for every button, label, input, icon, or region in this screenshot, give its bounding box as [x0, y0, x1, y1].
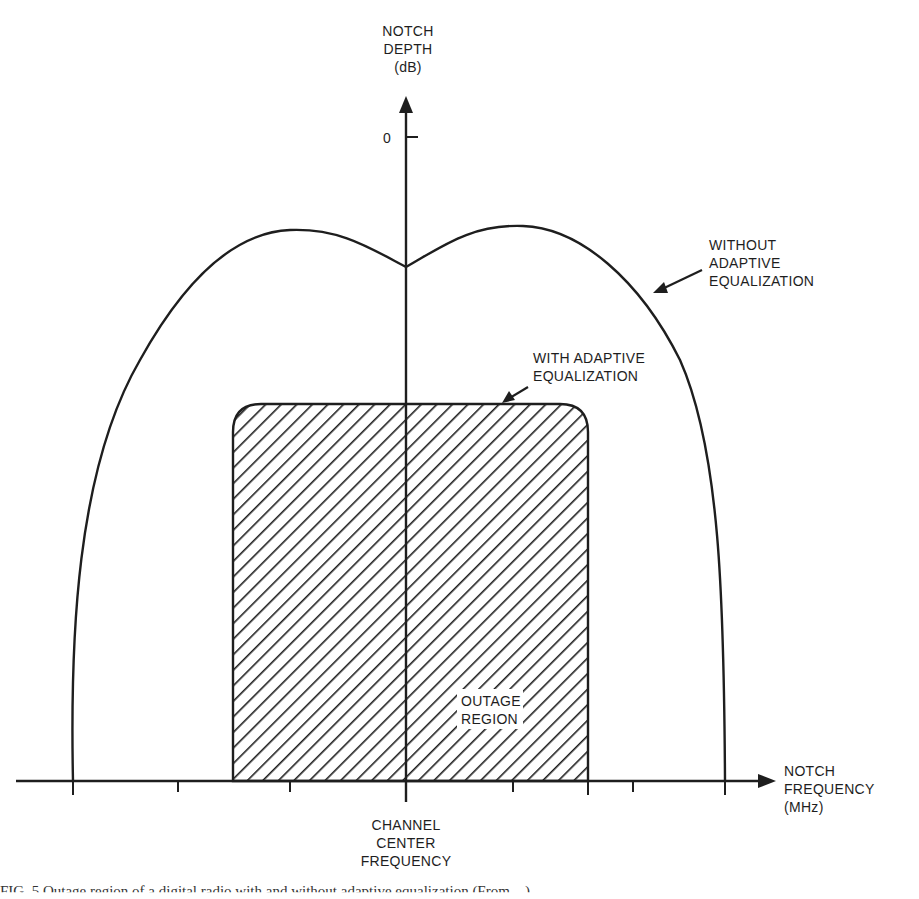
- diagram-canvas: [0, 0, 919, 899]
- x-ticks: [73, 781, 725, 795]
- outage-region-diagram: NOTCH DEPTH (dB) 0 WITHOUT ADAPTIVE EQUA…: [0, 0, 919, 899]
- x-axis-label-line: NOTCH: [784, 762, 875, 780]
- x-axis-arrow-icon: [758, 774, 776, 788]
- label-line: WITHOUT: [709, 236, 814, 254]
- label-line: CENTER: [346, 834, 466, 852]
- outage-region-label: OUTAGE REGION: [461, 692, 521, 728]
- label-with-equalization: WITH ADAPTIVE EQUALIZATION: [533, 349, 645, 385]
- y-axis-label-line: NOTCH: [368, 22, 448, 40]
- label-line: EQUALIZATION: [709, 272, 814, 290]
- y-axis-label-line: (dB): [368, 58, 448, 76]
- leader-without-equalization: [653, 270, 702, 293]
- arrow-head-icon: [653, 282, 668, 293]
- label-line: OUTAGE: [461, 692, 521, 710]
- label-line: CHANNEL: [346, 816, 466, 834]
- y-axis-arrow-icon: [399, 96, 413, 113]
- x-axis-label: NOTCH FREQUENCY (MHz): [784, 762, 875, 816]
- y-axis-label-line: DEPTH: [368, 40, 448, 58]
- y-tick-label: 0: [383, 129, 391, 147]
- label-line: EQUALIZATION: [533, 367, 645, 385]
- x-axis-label-line: FREQUENCY: [784, 780, 875, 798]
- channel-center-label: CHANNEL CENTER FREQUENCY: [346, 816, 466, 870]
- label-line: ADAPTIVE: [709, 254, 814, 272]
- label-without-equalization: WITHOUT ADAPTIVE EQUALIZATION: [709, 236, 814, 290]
- label-line: WITH ADAPTIVE: [533, 349, 645, 367]
- outage-region-with-equalization: [233, 404, 588, 781]
- x-axis-label-line: (MHz): [784, 798, 875, 816]
- label-line: REGION: [461, 710, 521, 728]
- label-line: FREQUENCY: [346, 852, 466, 870]
- y-axis-label: NOTCH DEPTH (dB): [368, 22, 448, 76]
- leader-with-equalization: [502, 387, 528, 403]
